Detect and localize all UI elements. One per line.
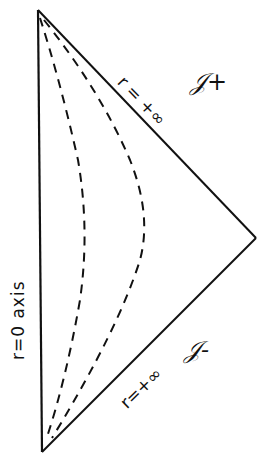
scri-plus-label: 𝒥+ — [190, 68, 227, 96]
axis-line — [38, 10, 42, 452]
scri-plus-line — [38, 10, 256, 238]
penrose-diagram: r=0 axis r = +∞ 𝒥+ r=+∞ 𝒥- — [0, 0, 266, 465]
scri-minus-line — [42, 238, 256, 452]
inner-dashed-curve — [40, 18, 85, 440]
scri-minus-label: 𝒥- — [184, 336, 209, 364]
axis-label: r=0 axis — [8, 280, 28, 360]
